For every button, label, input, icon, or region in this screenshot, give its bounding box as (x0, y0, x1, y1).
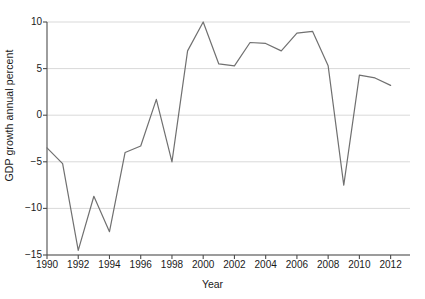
data-line-series-0 (47, 22, 391, 250)
x-tick-label-1998: 1998 (155, 260, 189, 270)
y-tick-label--5: −5 (14, 157, 42, 167)
x-tick-label-1992: 1992 (61, 260, 95, 270)
x-tick-label-2002: 2002 (217, 260, 251, 270)
x-tick-label-2004: 2004 (249, 260, 283, 270)
y-tick-label-0: 0 (14, 110, 42, 120)
plot-area (0, 0, 425, 299)
x-tick-label-2010: 2010 (342, 260, 376, 270)
gdp-growth-line-chart: GDP growth annual percent Year 1050−5−10… (0, 0, 425, 299)
x-tick-label-1994: 1994 (92, 260, 126, 270)
y-tick-label--10: −10 (14, 203, 42, 213)
x-tick-label-2006: 2006 (280, 260, 314, 270)
x-tick-label-1996: 1996 (124, 260, 158, 270)
x-tick-label-2012: 2012 (374, 260, 408, 270)
y-tick-label-10: 10 (14, 17, 42, 27)
x-tick-label-2008: 2008 (311, 260, 345, 270)
y-tick-label-5: 5 (14, 64, 42, 74)
x-tick-label-1990: 1990 (30, 260, 64, 270)
x-tick-label-2000: 2000 (186, 260, 220, 270)
